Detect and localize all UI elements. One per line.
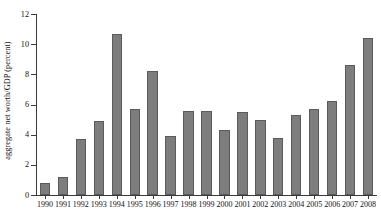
x-tick-2002 [260, 195, 261, 199]
bar-2008 [363, 38, 373, 195]
bar-2001 [237, 112, 247, 195]
x-tick-label: 1993 [91, 201, 107, 209]
x-tick-2008 [368, 195, 369, 199]
y-tick-label: 2 [25, 161, 29, 169]
y-tick-label: 8 [25, 71, 29, 79]
x-tick-2006 [332, 195, 333, 199]
x-tick-label: 1998 [181, 201, 197, 209]
bar-2007 [345, 65, 355, 195]
bar-1995 [130, 109, 140, 195]
x-tick-2004 [296, 195, 297, 199]
y-tick-2: 2 [31, 165, 36, 166]
bar-2006 [327, 101, 337, 195]
bar-2003 [273, 138, 283, 195]
x-tick-label: 1996 [145, 201, 161, 209]
x-tick-1999 [207, 195, 208, 199]
y-tick-12: 12 [31, 14, 36, 15]
x-tick-1996 [153, 195, 154, 199]
bar-1996 [147, 71, 157, 195]
y-tick-label: 10 [21, 41, 29, 49]
x-tick-1993 [99, 195, 100, 199]
x-tick-2000 [224, 195, 225, 199]
x-tick-label: 2005 [306, 201, 322, 209]
bar-1992 [76, 139, 86, 195]
x-tick-2003 [278, 195, 279, 199]
plot-area: 024681012 199019911992199319941995199619… [36, 14, 377, 195]
x-tick-label: 2001 [234, 201, 250, 209]
x-tick-label: 2008 [360, 201, 376, 209]
y-tick-label: 4 [25, 131, 29, 139]
bar-1997 [165, 136, 175, 195]
x-tick-1990 [45, 195, 46, 199]
y-tick-10: 10 [31, 44, 36, 45]
bar-1991 [58, 177, 68, 195]
y-tick-8: 8 [31, 74, 36, 75]
x-tick-label: 1997 [163, 201, 179, 209]
bar-2005 [309, 109, 319, 195]
bar-chart: aggregate net worth/GDP (percent) 024681… [0, 0, 381, 221]
bar-2002 [255, 120, 265, 195]
bar-1994 [112, 34, 122, 195]
y-tick-4: 4 [31, 135, 36, 136]
x-tick-label: 2007 [342, 201, 358, 209]
x-tick-2007 [350, 195, 351, 199]
y-tick-label: 12 [21, 10, 29, 18]
bar-2000 [219, 130, 229, 195]
x-tick-label: 1990 [37, 201, 53, 209]
bar-1993 [94, 121, 104, 195]
x-tick-label: 2000 [216, 201, 232, 209]
x-tick-1992 [81, 195, 82, 199]
y-tick-6: 6 [31, 105, 36, 106]
x-tick-1998 [189, 195, 190, 199]
y-axis-line [36, 14, 37, 195]
x-tick-label: 1999 [199, 201, 215, 209]
y-tick-0: 0 [31, 195, 36, 196]
bar-1990 [40, 183, 50, 195]
y-axis-title: aggregate net worth/GDP (percent) [0, 0, 14, 200]
x-tick-label: 2004 [288, 201, 304, 209]
y-axis-title-label: aggregate net worth/GDP (percent) [3, 41, 12, 159]
x-tick-label: 1995 [127, 201, 143, 209]
bar-1999 [201, 111, 211, 195]
x-tick-label: 2002 [252, 201, 268, 209]
x-tick-2005 [314, 195, 315, 199]
x-tick-1995 [135, 195, 136, 199]
x-tick-label: 1991 [55, 201, 71, 209]
y-tick-label: 0 [25, 191, 29, 199]
x-tick-1994 [117, 195, 118, 199]
bar-1998 [183, 111, 193, 195]
x-tick-label: 1992 [73, 201, 89, 209]
x-tick-1991 [63, 195, 64, 199]
x-tick-label: 1994 [109, 201, 125, 209]
x-tick-1997 [171, 195, 172, 199]
bar-2004 [291, 115, 301, 195]
x-tick-label: 2006 [324, 201, 340, 209]
x-tick-label: 2003 [270, 201, 286, 209]
x-tick-2001 [242, 195, 243, 199]
y-tick-label: 6 [25, 101, 29, 109]
